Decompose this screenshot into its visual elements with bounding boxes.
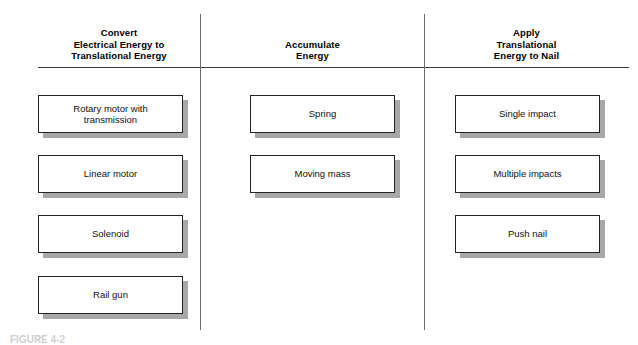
option-box-label-line: transmission — [84, 114, 137, 125]
option-box: Spring — [250, 95, 395, 133]
option-box: Rotary motor with transmission — [38, 95, 183, 133]
column-header-convert-electrical-to-translational: Convert Electrical Energy to Translation… — [38, 6, 200, 62]
column-header-accumulate-energy: Accumulate Energy — [201, 6, 424, 62]
column-header-line: Energy — [296, 50, 329, 62]
column-header-line: Convert — [101, 27, 138, 39]
option-box-label: Multiple impacts — [487, 168, 567, 180]
option-box-label: Spring — [303, 108, 342, 120]
column-header-line: Energy to Nail — [494, 50, 559, 62]
option-box-label: Push nail — [502, 228, 553, 240]
header-divider-rule — [38, 67, 629, 68]
column-header-line: Translational — [497, 39, 557, 51]
option-box: Solenoid — [38, 215, 183, 253]
option-box-label: Solenoid — [86, 228, 135, 240]
column-header-line: Electrical Energy to — [74, 39, 165, 51]
column-header-apply-translational-energy-to-nail: Apply Translational Energy to Nail — [425, 6, 628, 62]
option-box: Moving mass — [250, 155, 395, 193]
option-box: Linear motor — [38, 155, 183, 193]
figure-caption: FIGURE 4-2 — [10, 334, 65, 345]
option-box-label: Moving mass — [289, 168, 357, 180]
option-box-label: Rotary motor with transmission — [67, 103, 153, 126]
option-box: Single impact — [455, 95, 600, 133]
column-header-band: Convert Electrical Energy to Translation… — [0, 0, 638, 68]
option-box-label: Single impact — [493, 108, 562, 120]
option-box: Rail gun — [38, 276, 183, 314]
column-divider-1 — [200, 14, 201, 330]
column-header-line: Translational Energy — [71, 50, 166, 62]
option-box-label-line: Rotary motor with — [73, 103, 147, 114]
column-header-line: Accumulate — [285, 39, 340, 51]
column-header-line: Apply — [513, 27, 540, 39]
option-box-label: Rail gun — [87, 289, 134, 301]
option-box-label: Linear motor — [78, 168, 143, 180]
column-divider-2 — [424, 14, 425, 330]
option-box: Push nail — [455, 215, 600, 253]
morphological-chart: Convert Electrical Energy to Translation… — [0, 0, 638, 345]
option-box: Multiple impacts — [455, 155, 600, 193]
